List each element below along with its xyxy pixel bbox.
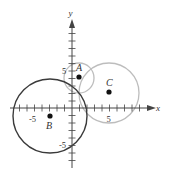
point-a-dot xyxy=(76,74,81,79)
coordinate-plane-diagram: x -5 5 y 5 -5 xyxy=(0,0,169,176)
point-c-dot xyxy=(106,89,111,94)
point-a: A xyxy=(75,62,83,80)
point-b-dot xyxy=(47,113,52,118)
x-axis-arrow-icon xyxy=(147,105,156,111)
x-tick-label-5: 5 xyxy=(107,114,111,124)
point-c-label: C xyxy=(106,77,113,88)
point-a-label: A xyxy=(75,62,83,73)
point-b: B xyxy=(46,113,53,131)
y-tick-label-neg5: -5 xyxy=(59,140,66,150)
x-tick-label-neg5: -5 xyxy=(29,114,36,124)
point-c: C xyxy=(106,77,113,95)
point-b-label: B xyxy=(46,120,52,131)
y-axis-label: y xyxy=(68,8,73,18)
x-axis-label: x xyxy=(155,103,160,113)
y-tick-label-5: 5 xyxy=(62,66,66,76)
y-axis-arrow-icon xyxy=(69,19,75,28)
